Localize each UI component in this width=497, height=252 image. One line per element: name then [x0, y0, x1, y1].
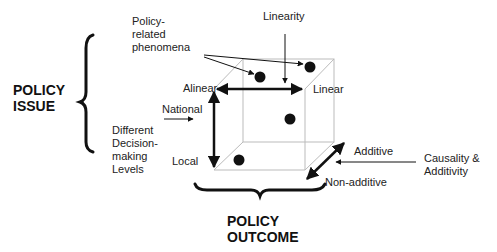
- policy-outcome-brace: [195, 184, 325, 196]
- additivity-axis-arrow: [307, 143, 344, 179]
- point: [255, 72, 266, 83]
- linear-label: Linear: [313, 83, 344, 96]
- local-label: Local: [172, 155, 198, 168]
- cube-wireframe: [214, 59, 334, 170]
- point: [234, 155, 245, 166]
- policy-issue-label: POLICY ISSUE: [13, 82, 65, 114]
- point: [285, 114, 296, 125]
- point: [305, 62, 316, 73]
- alinear-label: Alinear: [183, 82, 217, 95]
- policy-outcome-label: POLICY OUTCOME: [227, 213, 299, 245]
- national-label: National: [162, 103, 202, 116]
- linearity-label: Linearity: [263, 10, 305, 23]
- non-additive-label: Non-additive: [325, 176, 387, 189]
- additive-label: Additive: [354, 145, 393, 158]
- phenomena-points: [234, 62, 316, 166]
- policy-related-phenomena-label: Policy- related phenomena: [132, 15, 190, 54]
- causality-additivity-label: Causality & Additivity: [424, 152, 480, 178]
- decision-levels-label: Different Decision- making Levels: [112, 124, 158, 176]
- phenomena-pointer-2: [204, 57, 254, 74]
- policy-issue-brace: [80, 35, 93, 152]
